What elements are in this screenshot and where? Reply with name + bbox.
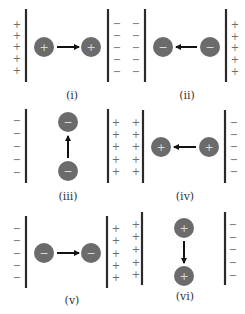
svg-text:+: + [231,42,239,53]
svg-text:+: + [231,31,239,42]
svg-text:−: − [132,42,140,53]
right-plate-signs: + + + + + [112,223,120,283]
svg-text:−: − [230,129,238,140]
svg-text:−: − [229,219,237,230]
svg-text:−: − [132,30,140,41]
svg-text:−: − [13,260,21,271]
svg-text:−: − [13,167,21,178]
svg-text:+: + [112,141,120,152]
svg-text:+: + [112,129,120,140]
right-plate-signs: + + + + + [231,19,239,77]
svg-text:+: + [132,154,140,165]
svg-text:+: + [132,117,140,128]
panel-vi: + + + + + + + − − − − − (vi) [132,212,237,303]
svg-text:−: − [132,54,140,65]
left-plate-signs: − − − − − [13,223,21,283]
left-plate-signs: + + + + + [13,19,21,76]
svg-text:+: + [132,244,140,255]
panel-iii: − − − − − − − + + + + + (iii) [13,109,120,203]
svg-text:−: − [13,128,21,139]
svg-text:−: − [13,141,21,152]
svg-text:+: + [132,257,140,268]
svg-text:+: + [132,231,140,242]
right-plate-signs: − − − − − [229,219,237,281]
svg-text:−: − [86,247,95,260]
panel-label: (ii) [179,89,195,102]
svg-text:+: + [132,141,140,152]
svg-text:+: + [231,19,239,30]
svg-text:−: − [132,18,140,29]
svg-text:+: + [132,269,140,280]
svg-text:−: − [113,42,121,53]
svg-text:+: + [13,65,21,76]
svg-text:+: + [156,141,165,154]
panel-iv: + + + + + + + − − − − − (iv) [132,110,238,203]
right-plate-signs: − − − − − [230,117,238,177]
svg-text:−: − [113,54,121,65]
svg-text:−: − [158,41,167,54]
panel-label: (v) [65,294,80,307]
panel-v: − − − − − − − + + + + + (v) [13,216,120,307]
svg-text:−: − [13,248,21,259]
svg-text:−: − [13,115,21,126]
svg-text:−: − [63,116,72,129]
svg-text:+: + [13,30,21,41]
svg-text:−: − [229,244,237,255]
svg-text:+: + [86,41,95,54]
right-plate-signs: − − − − − [113,18,121,77]
svg-text:−: − [230,117,238,128]
svg-text:−: − [230,154,238,165]
panel-label: (iv) [176,190,194,203]
panel-label: (vi) [176,290,194,303]
panel-label: (i) [66,89,78,102]
svg-text:+: + [13,53,21,64]
svg-text:+: + [112,272,120,283]
left-plate-signs: − − − − − [132,18,140,77]
svg-text:−: − [13,235,21,246]
panel-ii: − − − − − − − + + + + + (ii) [132,9,239,102]
svg-text:+: + [179,270,188,283]
panel-label: (iii) [58,190,77,203]
svg-text:+: + [179,222,188,235]
panel-i: + + + + + + + − − − − − (i) [13,9,121,102]
svg-text:−: − [132,66,140,77]
capacitor-charges-diagram: + + + + + + + − − − − − (i) − − − − − [0,0,245,314]
svg-text:+: + [132,166,140,177]
svg-text:−: − [13,154,21,165]
svg-text:+: + [112,260,120,271]
svg-text:+: + [112,235,120,246]
svg-text:−: − [230,166,238,177]
svg-text:+: + [204,141,213,154]
svg-text:−: − [229,232,237,243]
left-plate-signs: + + + + + [132,219,140,280]
svg-text:−: − [230,141,238,152]
svg-text:−: − [13,272,21,283]
svg-text:−: − [205,41,214,54]
svg-text:+: + [13,41,21,52]
left-plate-signs: − − − − − [13,115,21,178]
svg-text:+: + [39,41,48,54]
left-plate-signs: + + + + + [132,117,140,177]
svg-text:+: + [231,66,239,77]
svg-text:−: − [13,223,21,234]
svg-text:+: + [132,129,140,140]
svg-text:+: + [112,248,120,259]
svg-text:−: − [229,257,237,268]
svg-text:−: − [229,270,237,281]
svg-text:−: − [39,247,48,260]
svg-text:+: + [112,154,120,165]
right-plate-signs: + + + + + [112,117,120,177]
svg-text:+: + [132,219,140,230]
svg-text:+: + [231,54,239,65]
svg-text:−: − [113,66,121,77]
svg-text:−: − [63,165,72,178]
svg-text:−: − [113,18,121,29]
svg-text:−: − [113,30,121,41]
svg-text:+: + [13,19,21,30]
svg-text:+: + [112,117,120,128]
svg-text:+: + [112,223,120,234]
svg-text:+: + [112,166,120,177]
